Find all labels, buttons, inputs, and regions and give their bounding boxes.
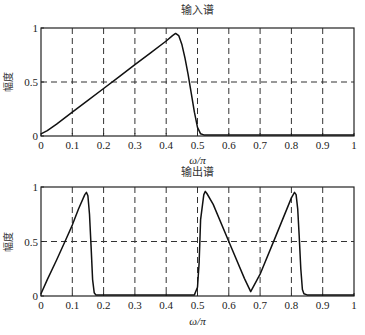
- svg-text:1: 1: [351, 139, 357, 151]
- svg-text:0.1: 0.1: [65, 299, 79, 311]
- x-axis-label: ω/π: [189, 315, 206, 327]
- grid-lines: [41, 28, 354, 136]
- svg-text:0.5: 0.5: [191, 299, 205, 311]
- svg-text:0.5: 0.5: [191, 139, 205, 151]
- svg-text:1: 1: [351, 299, 357, 311]
- y-axis-label: 幅度: [2, 232, 14, 252]
- svg-text:0.9: 0.9: [316, 139, 330, 151]
- chart-title: 输出谱: [181, 165, 214, 179]
- svg-text:1: 1: [33, 22, 39, 34]
- svg-text:0.8: 0.8: [285, 299, 299, 311]
- y-axis-label: 幅度: [2, 72, 14, 92]
- spectrum-line: [41, 191, 354, 295]
- svg-text:0.4: 0.4: [159, 139, 173, 151]
- chart-canvas: 输入谱00.10.20.30.40.50.60.70.80.9100.51ω/π…: [0, 0, 365, 335]
- svg-text:0.6: 0.6: [222, 139, 236, 151]
- svg-text:0.2: 0.2: [97, 139, 111, 151]
- svg-text:0.9: 0.9: [316, 299, 330, 311]
- svg-text:0.6: 0.6: [222, 299, 236, 311]
- svg-text:0.2: 0.2: [97, 299, 111, 311]
- svg-text:0.4: 0.4: [159, 299, 173, 311]
- svg-text:0.7: 0.7: [253, 299, 267, 311]
- svg-text:0.8: 0.8: [285, 139, 299, 151]
- svg-text:0: 0: [33, 290, 39, 302]
- svg-text:1: 1: [33, 181, 39, 193]
- svg-text:0.3: 0.3: [128, 139, 142, 151]
- svg-text:0.5: 0.5: [24, 236, 38, 248]
- x-axis-label: ω/π: [189, 154, 206, 166]
- subplot-1: 输入谱00.10.20.30.40.50.60.70.80.9100.51ω/π…: [2, 3, 357, 166]
- svg-text:0: 0: [33, 130, 39, 142]
- chart-figure: 输入谱00.10.20.30.40.50.60.70.80.9100.51ω/π…: [0, 0, 365, 335]
- svg-text:0: 0: [38, 139, 44, 151]
- svg-text:0.3: 0.3: [128, 299, 142, 311]
- svg-text:0.1: 0.1: [65, 139, 79, 151]
- chart-title: 输入谱: [181, 3, 214, 17]
- svg-text:0.7: 0.7: [253, 139, 267, 151]
- svg-text:0: 0: [38, 299, 44, 311]
- svg-text:0.5: 0.5: [24, 76, 38, 88]
- subplot-2: 输出谱00.10.20.30.40.50.60.70.80.9100.51ω/π…: [2, 165, 357, 327]
